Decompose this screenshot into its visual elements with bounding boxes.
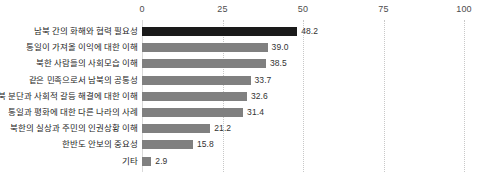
bar (142, 157, 151, 166)
category-label: 남북 간의 화해와 협력 필요성 (34, 24, 142, 39)
bar-row: 통일이 가져올 이익에 대한 이해39.0 (0, 40, 491, 55)
bar-row: 북한 사람들의 사회모습 이해38.5 (0, 56, 491, 71)
bar-row: 남북 분단과 사회적 갈등 해결에 대한 이해32.6 (0, 89, 491, 104)
bar (142, 124, 210, 133)
bar-row: 기타2.9 (0, 154, 491, 169)
x-tick-label: 50 (298, 4, 308, 14)
value-label: 15.8 (197, 137, 214, 152)
value-label: 39.0 (272, 40, 289, 55)
x-tick-label: 0 (139, 4, 144, 14)
bar (142, 27, 297, 36)
category-label: 남북 분단과 사회적 갈등 해결에 대한 이해 (0, 89, 142, 104)
bar-row: 한반도 안보의 중요성15.8 (0, 137, 491, 152)
x-tick-label: 25 (217, 4, 227, 14)
bar-row: 남북 간의 화해와 협력 필요성48.2 (0, 24, 491, 39)
value-label: 2.9 (155, 154, 167, 169)
value-label: 31.4 (247, 105, 264, 120)
bar-row: 같은 민족으로서 남북의 공통성33.7 (0, 73, 491, 88)
category-label: 북한의 실상과 주민의 인권상황 이해 (10, 121, 142, 136)
category-label: 기타 (122, 154, 142, 169)
bar (142, 140, 193, 149)
value-label: 33.7 (255, 73, 272, 88)
bar (142, 108, 243, 117)
bar (142, 43, 268, 52)
value-label: 32.6 (251, 89, 268, 104)
horizontal-bar-chart: 0255075100 남북 간의 화해와 협력 필요성48.2통일이 가져올 이… (0, 0, 491, 178)
category-label: 같은 민족으로서 남북의 공통성 (29, 73, 143, 88)
bar (142, 76, 251, 85)
category-label: 북한 사람들의 사회모습 이해 (36, 56, 142, 71)
bar-row: 통일과 평화에 대한 다른 나라의 사례31.4 (0, 105, 491, 120)
bar-row: 북한의 실상과 주민의 인권상황 이해21.2 (0, 121, 491, 136)
value-label: 38.5 (270, 56, 287, 71)
x-tick-label: 75 (378, 4, 388, 14)
category-label: 통일과 평화에 대한 다른 나라의 사례 (8, 105, 142, 120)
bar (142, 59, 266, 68)
category-label: 통일이 가져올 이익에 대한 이해 (26, 40, 142, 55)
value-label: 21.2 (214, 121, 231, 136)
x-tick-label: 100 (456, 4, 472, 14)
bar (142, 92, 247, 101)
value-label: 48.2 (301, 24, 318, 39)
category-label: 한반도 안보의 중요성 (62, 137, 142, 152)
